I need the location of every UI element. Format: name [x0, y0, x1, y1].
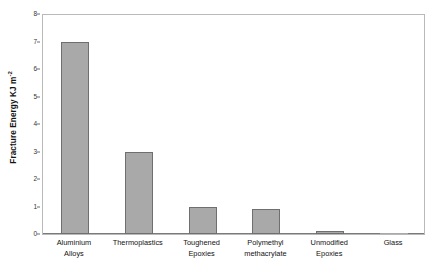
y-tick-mark: [37, 206, 40, 207]
x-category-label-line: Alloys: [37, 249, 111, 260]
bar[interactable]: [380, 233, 408, 234]
y-axis-title-text: Fracture Energy KJ m-2: [7, 71, 18, 164]
y-tick-mark: [37, 96, 40, 97]
y-axis-tick-labels: 012345678: [24, 14, 40, 235]
y-tick-mark: [37, 124, 40, 125]
x-category-label: Glass: [356, 238, 430, 249]
y-axis-title-superscript: -2: [7, 71, 13, 77]
bar-chart: Fracture Energy KJ m-2 012345678 Alumini…: [0, 0, 439, 269]
y-axis-title-label: Fracture Energy KJ m: [8, 77, 17, 164]
bar[interactable]: [125, 152, 153, 235]
x-category-label-line: Epoxies: [292, 249, 366, 260]
x-category-label-line: Glass: [356, 238, 430, 249]
y-tick-mark: [37, 14, 40, 15]
bar[interactable]: [316, 231, 344, 234]
x-axis-category-labels: AluminiumAlloysThermoplasticsToughenedEp…: [42, 238, 425, 269]
y-tick-mark: [37, 179, 40, 180]
bar[interactable]: [189, 207, 217, 235]
bar[interactable]: [61, 42, 89, 235]
y-tick-mark: [37, 234, 40, 235]
bar[interactable]: [252, 209, 280, 234]
plot-area: [42, 14, 425, 235]
y-tick-mark: [37, 151, 40, 152]
axis-baseline: [43, 233, 424, 234]
y-tick-mark: [37, 69, 40, 70]
plot-inner: [43, 15, 424, 234]
y-tick-mark: [37, 41, 40, 42]
y-axis-title: Fracture Energy KJ m-2: [0, 0, 24, 235]
